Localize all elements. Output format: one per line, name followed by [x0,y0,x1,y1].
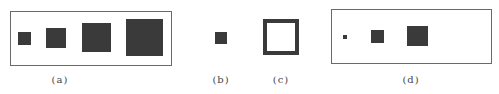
panel-a-label: (a) [52,74,69,85]
panel-b-square [215,32,227,44]
panel-d-square-1 [343,35,347,39]
panel-a-square-4 [126,19,163,56]
panel-d-square-3 [407,26,428,46]
panel-a-square-1 [18,32,31,45]
panel-a-square-2 [46,28,66,48]
panel-c-outline-square [263,19,299,55]
panel-d-label: (d) [402,74,419,85]
panel-a-square-3 [82,23,111,52]
panel-d-square-2 [371,30,384,43]
panel-c-label: (c) [273,74,289,85]
panel-b-label: (b) [212,74,229,85]
